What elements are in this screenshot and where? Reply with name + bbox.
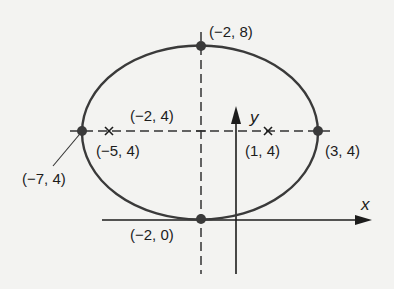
left-vertex-leader-line	[53, 135, 79, 166]
x-axis-label: x	[360, 195, 370, 214]
ellipse-diagram: (−2, 8) (−2, 4) (−5, 4) (1, 4) (3, 4) (−…	[0, 0, 394, 289]
right-focus-label: (1, 4)	[245, 142, 280, 159]
x-axis-arrow-icon	[355, 215, 372, 225]
right-vertex-label: (3, 4)	[325, 142, 360, 159]
top-vertex-label: (−2, 8)	[209, 23, 253, 40]
y-axis-label: y	[249, 108, 260, 127]
left-vertex-label: (−7, 4)	[22, 170, 66, 187]
left-focus-label: (−5, 4)	[96, 142, 140, 159]
center-label: (−2, 4)	[130, 107, 174, 124]
right-vertex-dot	[313, 126, 323, 136]
left-vertex-dot	[77, 126, 87, 136]
ellipse-curve	[82, 46, 318, 220]
y-axis-arrow-icon	[231, 106, 241, 124]
bottom-vertex-dot	[196, 214, 206, 224]
bottom-vertex-label: (−2, 0)	[130, 226, 174, 243]
top-vertex-dot	[196, 41, 206, 51]
